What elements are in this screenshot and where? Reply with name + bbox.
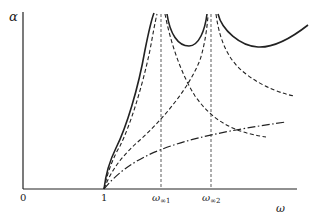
dash-dot-curve-section-3 [104,122,286,189]
omega-inf2-subscript: ∞2 [210,197,220,205]
dashed-curve-section-2-decay [216,14,294,96]
omega-inf2-base: ω [202,192,210,203]
dashed-curve-section-1-rise [104,14,157,189]
omega-inf1-subscript: ∞1 [160,197,170,205]
tick-label-omega-inf1: ω∞1 [152,193,170,205]
omega-inf1-base: ω [152,192,160,203]
solid-curve-right-branch [218,14,308,47]
origin-label: 0 [20,193,26,203]
attenuation-diagram [0,0,322,216]
x-axis-label: ω [276,203,285,214]
tick-label-omega-inf2: ω∞2 [202,193,220,205]
dashed-curve-section-2-rise [104,16,208,189]
solid-curve-middle-bowl [167,14,207,46]
y-axis-label: α [9,10,18,23]
dashed-curve-section-1-decay [165,14,266,137]
tick-label-one: 1 [101,193,107,203]
